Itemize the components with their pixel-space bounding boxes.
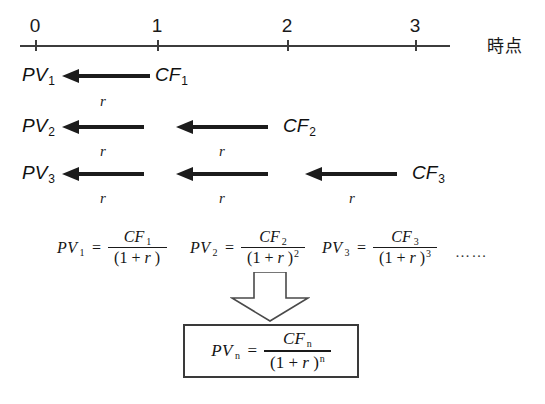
cf1-subscript: 1 xyxy=(180,74,188,88)
arrow-head-icon xyxy=(305,167,322,181)
cf3-subscript: 3 xyxy=(437,172,445,186)
formula-pv3-den-close: ) xyxy=(416,249,425,266)
cf1-text: CF xyxy=(155,64,180,85)
rate-label-row3-1: r xyxy=(96,190,110,207)
formula-pv2-lhs-sub: 2 xyxy=(211,247,219,258)
discount-arrow-row1-seg1 xyxy=(62,69,150,83)
pv2-text: PV xyxy=(22,115,47,136)
rate-label-row2-2: r xyxy=(215,143,229,160)
tick-label-2: 2 xyxy=(275,15,299,37)
formula-pv1-den-open: (1 + xyxy=(114,249,144,266)
rate-label-row3-3: r xyxy=(345,190,359,207)
arrow-head-icon xyxy=(62,167,79,181)
formula-pvn-numerator: CFn xyxy=(277,329,318,350)
tick-mark-1 xyxy=(157,40,159,51)
pv1-label: PV1 xyxy=(22,64,55,86)
formula-pvn-den-exp: n xyxy=(319,353,325,364)
formula-pv3-denominator: (1 + r )3 xyxy=(373,248,437,267)
formula-pv1-numerator: CF1 xyxy=(118,228,157,247)
tick-label-3: 3 xyxy=(403,15,427,37)
cf3-text: CF xyxy=(412,162,437,183)
tick-label-0: 0 xyxy=(23,15,47,37)
down-arrow-icon xyxy=(230,272,310,322)
arrow-shaft xyxy=(192,125,268,129)
tick-mark-2 xyxy=(287,40,289,51)
formula-pvn-lhs-sub: n xyxy=(233,350,241,361)
pv1-subscript: 1 xyxy=(47,74,55,88)
tick-mark-3 xyxy=(415,40,417,51)
cf2-subscript: 2 xyxy=(308,125,316,139)
formula-pv1-den-close: ) xyxy=(151,249,160,266)
rate-label-row3-2: r xyxy=(215,190,229,207)
rate-label-row1-1: r xyxy=(96,93,110,110)
formula-pvn-den-var: r xyxy=(302,353,309,372)
formula-pv2: PV2 = CF2 (1 + r )2 xyxy=(190,228,305,267)
formula-pv1-fraction: CF1 (1 + r ) xyxy=(108,228,167,267)
diagram-canvas: 0 1 2 3 時点 PV1 CF1 r PV2 CF2 r r PV3 xyxy=(0,0,545,404)
formula-pv1-den-exp xyxy=(160,248,161,259)
formula-pv1-lhs-text: PV xyxy=(57,239,78,256)
discount-arrow-row2-seg2 xyxy=(176,120,268,134)
formula-pv3-lhs: PV3 xyxy=(322,239,350,257)
formula-pv3-lhs-sub: 3 xyxy=(343,247,351,258)
pv3-label: PV3 xyxy=(22,162,55,184)
tick-mark-0 xyxy=(35,40,37,51)
pv3-text: PV xyxy=(22,162,47,183)
formula-pv3-lhs-text: PV xyxy=(322,239,343,256)
cf2-text: CF xyxy=(283,115,308,136)
arrow-shaft xyxy=(78,74,150,78)
formula-pvn: PVn = CFn (1 + r )n xyxy=(211,329,331,372)
cf2-label: CF2 xyxy=(283,115,316,137)
formula-pv2-den-open: (1 + xyxy=(247,249,277,266)
formula-pv3-den-exp: 3 xyxy=(425,248,431,259)
formula-pvn-equals: = xyxy=(247,341,257,361)
formula-pv2-numerator: CF2 xyxy=(253,228,292,247)
formula-ellipsis: …… xyxy=(455,244,488,261)
formula-pv2-den-exp: 2 xyxy=(293,248,299,259)
tick-label-1: 1 xyxy=(145,15,169,37)
formula-pv2-fraction: CF2 (1 + r )2 xyxy=(241,228,305,267)
formula-pv3-numerator: CF3 xyxy=(385,228,424,247)
pv2-label: PV2 xyxy=(22,115,55,137)
arrow-head-icon xyxy=(176,167,193,181)
formula-pv3-num-sub: 3 xyxy=(412,236,419,247)
formula-pv2-denominator: (1 + r )2 xyxy=(241,248,305,267)
formula-pv2-equals: = xyxy=(225,239,234,257)
formula-pv3-equals: = xyxy=(357,239,366,257)
arrow-head-icon xyxy=(62,120,79,134)
formula-pv2-lhs: PV2 xyxy=(190,239,218,257)
arrow-head-icon xyxy=(176,120,193,134)
formula-pv1-num-sub: 1 xyxy=(144,236,151,247)
discount-arrow-row3-seg2 xyxy=(176,167,268,181)
formula-pv1: PV1 = CF1 (1 + r ) xyxy=(57,228,167,267)
formula-pv1-lhs: PV1 xyxy=(57,239,85,257)
formula-pv2-num-text: CF xyxy=(259,228,279,245)
discount-arrow-row2-seg1 xyxy=(62,120,144,134)
pv1-text: PV xyxy=(22,64,47,85)
axis-title-jitten: 時点 xyxy=(487,32,523,57)
formula-pv2-den-close: ) xyxy=(284,249,293,266)
formula-pv3-fraction: CF3 (1 + r )3 xyxy=(373,228,437,267)
formula-pv3-den-open: (1 + xyxy=(379,249,409,266)
discount-arrow-row3-seg1 xyxy=(62,167,144,181)
pv3-subscript: 3 xyxy=(47,172,55,186)
formula-pv1-denominator: (1 + r ) xyxy=(108,248,167,267)
formula-pv1-lhs-sub: 1 xyxy=(78,247,86,258)
formula-pvn-fraction: CFn (1 + r )n xyxy=(264,329,331,372)
formula-pv3: PV3 = CF3 (1 + r )3 xyxy=(322,228,437,267)
formula-pvn-lhs: PVn xyxy=(211,341,240,361)
cf1-label: CF1 xyxy=(155,64,188,86)
formula-pvn-den-open: (1 + xyxy=(270,353,302,372)
formula-pvn-num-text: CF xyxy=(283,329,305,348)
formula-pvn-denominator: (1 + r )n xyxy=(264,352,331,373)
cf3-label: CF3 xyxy=(412,162,445,184)
formula-pvn-lhs-text: PV xyxy=(211,341,233,360)
formula-pv3-num-text: CF xyxy=(391,228,411,245)
arrow-shaft xyxy=(321,172,397,176)
result-formula-box: PVn = CFn (1 + r )n xyxy=(183,324,359,378)
arrow-head-icon xyxy=(62,69,79,83)
formula-pvn-num-sub: n xyxy=(305,338,312,349)
arrow-shaft xyxy=(78,172,144,176)
formula-pv2-lhs-text: PV xyxy=(190,239,211,256)
formula-pv1-equals: = xyxy=(92,239,101,257)
